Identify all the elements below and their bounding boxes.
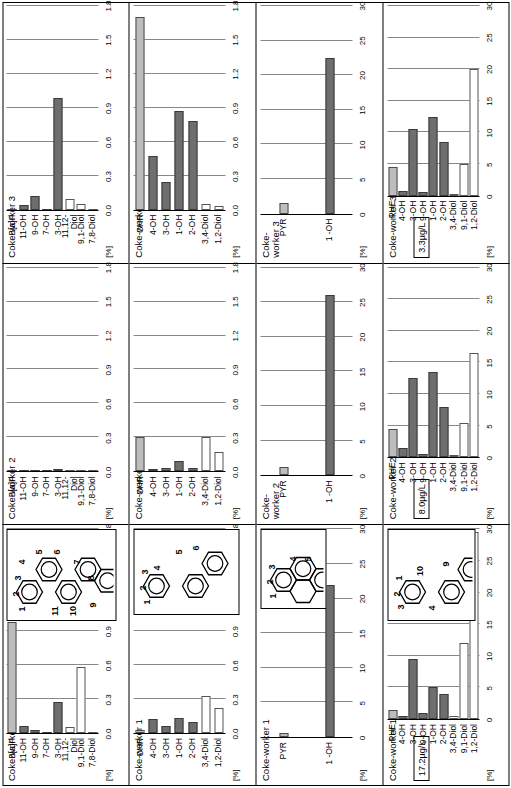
svg-text:3: 3 (266, 565, 276, 570)
panel-bap-worker3: Coke-worker 3[%]B[a]P11-OH9-OH7-OH3-OH11… (2, 2, 128, 263)
bar-7OH (42, 732, 51, 733)
axis-tick: 25 (357, 36, 366, 45)
category-label: PHE (388, 462, 397, 502)
axis-tick: 20 (357, 71, 366, 80)
bar-91Diol (459, 423, 468, 458)
bar-CHR (135, 437, 144, 471)
bar-3OH (53, 98, 62, 210)
bar-row (88, 6, 97, 210)
svg-text:7: 7 (71, 560, 81, 565)
axis-tick: 0 (484, 194, 493, 198)
group-row-phe: Coke-worker 117.2µg/L[%]PHE4-OH3-OH9-OH1… (383, 2, 509, 786)
bar-row (7, 6, 16, 210)
panel-grid: Coke-worker 1[%]B[a]P11-OH9-OH7-OH3-OH11… (2, 2, 509, 786)
phenanthrene-structure: 2134109 (387, 529, 475, 621)
category-label: 3,4-Diol (449, 201, 458, 241)
category-label: 2-OH (439, 724, 448, 764)
axis-tick: 1.2 (103, 330, 112, 341)
axis-tick-labels: 051015202530 (352, 529, 366, 738)
unit-label: [%] (230, 508, 239, 520)
bar-row (76, 268, 85, 472)
bar-series (6, 6, 98, 210)
axis-tick: 20 (357, 594, 366, 603)
bar-12Diol (214, 708, 223, 733)
category-label: 9,1-Diol (459, 724, 468, 764)
bar-12Diol (469, 69, 478, 195)
svg-text:1: 1 (393, 576, 403, 581)
unit-label: [%] (103, 508, 112, 520)
axis-tick: 25 (484, 33, 493, 42)
panel-pyr-worker3: Coke- worker 3[%]PYR1 -OH051015202530 (256, 2, 382, 263)
unit-label: [%] (484, 769, 493, 781)
benzo[a]pyrene-structure: 2314567891011 (6, 529, 116, 621)
bar-11OH (19, 205, 28, 210)
bar-1OH (428, 117, 437, 196)
bar-BaP (7, 470, 16, 471)
axis-tick: 1.2 (230, 69, 239, 80)
bar-row (449, 268, 458, 458)
axis-tick: 0.6 (230, 660, 239, 671)
category-label: 9,1-Diol (459, 201, 468, 241)
bar-row (30, 268, 39, 472)
category-labels: PYR1 -OH (260, 480, 352, 510)
svg-text:1: 1 (141, 600, 151, 605)
category-label: 9-OH (31, 738, 40, 774)
category-label: 1-OH (175, 738, 184, 774)
category-label: B[a]P (8, 476, 17, 512)
axis-tick: 10 (357, 664, 366, 673)
bar-PHE (388, 167, 397, 195)
axis-tick: 30 (357, 525, 366, 534)
category-labels: B[a]P11-OH9-OH7-OH3-OH11,12-Diol9,1-Diol… (6, 738, 98, 774)
axis-tick: 5 (357, 701, 366, 705)
bar-row (418, 268, 427, 458)
bar-12Diol (214, 452, 223, 471)
bar-row (388, 6, 397, 196)
category-label: 9-OH (419, 201, 428, 241)
bar-3OH (408, 378, 417, 457)
bar-row (19, 6, 28, 210)
bar-12Diol (214, 206, 223, 209)
bar-34Diol (201, 204, 210, 210)
category-labels: B[a]P11-OH9-OH7-OH3-OH11,12-Diol9,1-Diol… (6, 215, 98, 251)
axis-tick: 1.8 (230, 262, 239, 273)
bar-91Diol (76, 204, 85, 210)
bar-1OH (174, 718, 183, 733)
bar-row (398, 268, 407, 458)
axis-tick: 0.3 (230, 694, 239, 705)
bar-91Diol (76, 667, 85, 733)
plot-area (260, 268, 352, 477)
panel-pyr-worker2: Coke- worker 2[%]PYR1 -OH051015202530 (256, 263, 382, 525)
plot-bap-worker2: B[a]P11-OH9-OH7-OH3-OH11,12-Diol9,1-Diol… (6, 268, 112, 473)
axis-tick: 15 (484, 97, 493, 106)
category-label: 1,2-Diol (214, 215, 223, 251)
plot-area (387, 268, 479, 459)
panel-phe-worker2: Coke-worker 28.0µg/L[%]PHE4-OH3-OH9-OH1-… (383, 263, 509, 525)
bar-2OH (439, 142, 448, 196)
axis-tick: 0 (357, 212, 366, 216)
category-label: 1,2-Diol (470, 724, 479, 764)
bar-series (133, 268, 225, 472)
axis-tick: 15 (357, 106, 366, 115)
axis-tick: 0.0 (230, 467, 239, 478)
unit-label: [%] (230, 769, 239, 781)
bar-1112Diol (65, 199, 74, 209)
category-label: 2-OH (188, 738, 197, 774)
axis-tick-labels: 051015202530 (352, 6, 366, 215)
axis-tick: 1.5 (230, 35, 239, 46)
plot-phe-worker2: PHE4-OH3-OH9-OH1-OH2-OH3,4-Diol9,1-Diol1… (387, 268, 493, 459)
category-label: 9-OH (31, 215, 40, 251)
axis-tick-labels: 0.00.30.60.91.21.51.8 (225, 268, 239, 473)
category-label: PHE (388, 724, 397, 764)
bar-1OH (428, 372, 437, 457)
bar-9OH (30, 196, 39, 210)
unit-label: [%] (357, 769, 366, 781)
bar-9OH (30, 730, 39, 733)
bar-row (439, 268, 448, 458)
bar-34Diol (449, 455, 458, 457)
bar-3OH (408, 659, 417, 719)
svg-text:2: 2 (391, 592, 401, 597)
bar-BaP (7, 209, 16, 210)
category-label: 1 -OH (325, 480, 334, 510)
bar-CHR (135, 730, 144, 733)
axis-tick-labels: 0.00.30.60.91.21.51.8 (98, 6, 112, 211)
